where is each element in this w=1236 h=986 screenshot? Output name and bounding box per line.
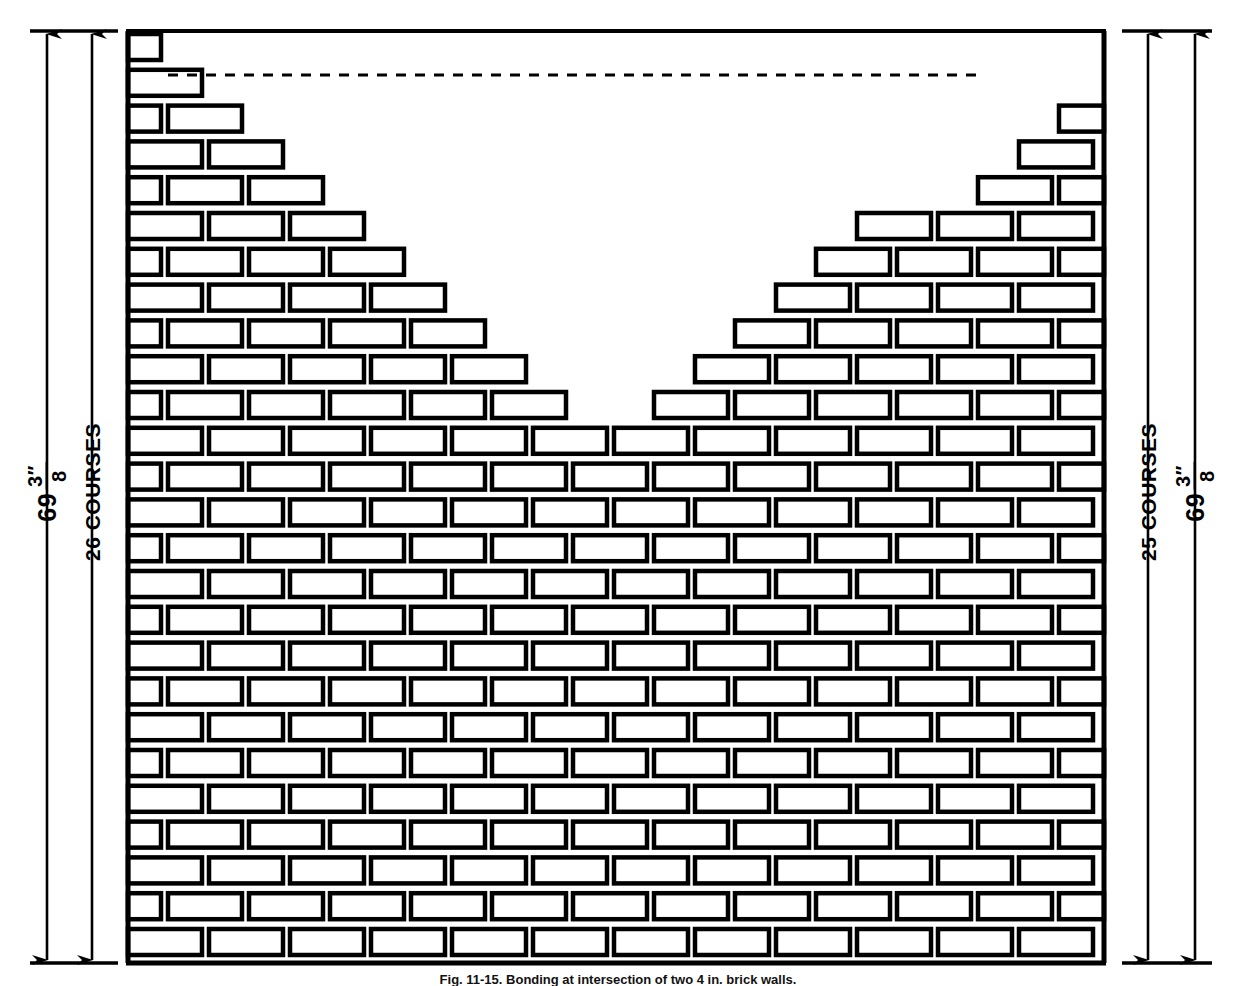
fraction-denominator-right: 8 [1196,467,1217,485]
dimension-fraction-right: 3″ 8 [1173,462,1218,490]
fraction-numerator-left: 3″ [25,462,48,490]
dimension-label-left-inner: 26 COURSES [82,423,103,561]
dimension-fraction-left: 3″ 8 [25,462,70,490]
fraction-numerator-right: 3″ [1173,462,1196,490]
dimension-label-right-outer: 69 3″ 8 [1173,462,1218,522]
dimension-value-right: 69 [1183,493,1208,522]
dimension-label-right-inner: 25 COURSES [1138,423,1159,561]
fraction-denominator-left: 8 [48,467,69,485]
figure-caption: Fig. 11-15. Bonding at intersection of t… [0,972,1236,986]
dimension-value-left: 69 [35,493,60,522]
dimension-label-left-outer: 69 3″ 8 [25,462,70,522]
